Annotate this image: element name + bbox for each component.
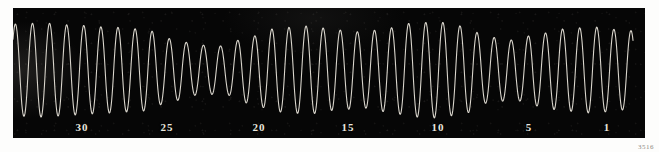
- photographic-plate: 302520151051: [13, 8, 645, 138]
- oscillation-path: [13, 22, 633, 117]
- tick-label-25: 25: [161, 121, 174, 133]
- tick-label-20: 20: [253, 121, 266, 133]
- tick-label-5: 5: [526, 121, 533, 133]
- oscillogram-figure: 302520151051 3516: [0, 0, 659, 152]
- tick-label-15: 15: [342, 121, 355, 133]
- tick-label-1: 1: [604, 121, 611, 133]
- plate-number-label: 3516: [638, 143, 654, 151]
- waveform-trace: [13, 8, 645, 138]
- tick-label-10: 10: [432, 121, 445, 133]
- tick-label-30: 30: [76, 121, 89, 133]
